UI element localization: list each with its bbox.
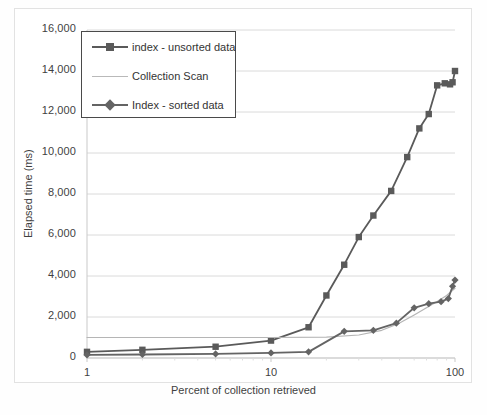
chart-legend: index - unsorted data Collection Scan In… — [81, 31, 236, 118]
legend-label-sorted: Index - sorted data — [132, 99, 224, 111]
line-marker-icon — [90, 69, 130, 83]
y-tick-label: 14,000 — [14, 63, 76, 75]
y-tick-label: 2,000 — [14, 309, 76, 321]
y-tick-label: 4,000 — [14, 268, 76, 280]
y-tick-label: 12,000 — [14, 104, 76, 116]
x-tick-label: 100 — [425, 366, 485, 378]
legend-item-unsorted: index - unsorted data — [82, 32, 235, 61]
legend-label-unsorted: index - unsorted data — [132, 41, 235, 53]
legend-item-collection-scan: Collection Scan — [82, 61, 235, 90]
x-tick-label: 10 — [241, 366, 301, 378]
y-axis-title: Elapsed time (ms) — [22, 149, 34, 238]
legend-label-collection-scan: Collection Scan — [132, 70, 208, 82]
x-axis-title: Percent of collection retrieved — [0, 384, 487, 396]
y-tick-label: 16,000 — [14, 22, 76, 34]
diamond-marker-icon — [90, 98, 130, 112]
chart-container: 02,0004,0006,0008,00010,00012,00014,0001… — [0, 0, 487, 415]
square-marker-icon — [90, 40, 130, 54]
y-tick-label: 0 — [14, 350, 76, 362]
legend-item-sorted: Index - sorted data — [82, 90, 235, 119]
x-tick-label: 1 — [57, 366, 117, 378]
